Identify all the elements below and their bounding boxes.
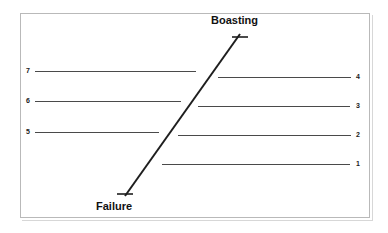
boasting-failure-diagram: 7 6 5 4 3 2 1 Boasting Failure xyxy=(0,0,388,233)
trend-line xyxy=(125,34,240,196)
trend-line-svg xyxy=(0,0,388,233)
endpoint-label-boasting: Boasting xyxy=(211,14,258,27)
endpoint-label-failure: Failure xyxy=(96,200,132,213)
